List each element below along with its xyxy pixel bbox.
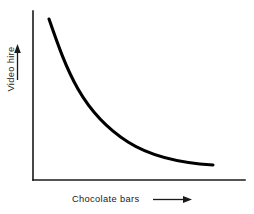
- y-axis-label: Video hire: [7, 35, 21, 103]
- x-axis-label: Chocolate bars: [72, 195, 139, 204]
- chart-plot-area: [0, 0, 254, 214]
- data-curve-line: [49, 19, 213, 165]
- right-arrow-icon: [153, 196, 192, 203]
- chart-figure: Video hire Chocolate bars: [0, 0, 254, 214]
